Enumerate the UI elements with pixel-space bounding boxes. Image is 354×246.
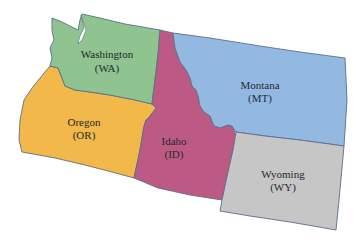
abbr-oregon: (OR) bbox=[73, 129, 96, 142]
abbr-wyoming: (WY) bbox=[270, 181, 296, 194]
label-idaho: Idaho bbox=[161, 135, 187, 147]
label-wyoming: Wyoming bbox=[261, 168, 305, 180]
abbr-idaho: (ID) bbox=[165, 148, 184, 161]
label-washington: Washington bbox=[81, 48, 134, 60]
label-montana: Montana bbox=[240, 79, 279, 91]
abbr-washington: (WA) bbox=[95, 62, 120, 75]
abbr-montana: (MT) bbox=[248, 92, 272, 105]
northwest-states-map: Washington (WA) Oregon (OR) Idaho (ID) M… bbox=[0, 0, 354, 246]
label-oregon: Oregon bbox=[68, 116, 101, 128]
